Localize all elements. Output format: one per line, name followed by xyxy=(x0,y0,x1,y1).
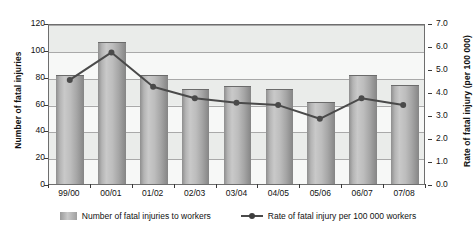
rate-point-03-04 xyxy=(234,100,240,106)
x-axis-labels: 99/0000/0101/0202/0303/0404/0505/0606/07… xyxy=(48,188,425,204)
bar-swatch-icon xyxy=(60,212,77,220)
y-axis-right-tick-label: 0.0 xyxy=(436,179,448,189)
rate-point-07-08 xyxy=(400,102,406,108)
y-axis-right-title: Rate of fatal injury (per 100 000) xyxy=(462,11,472,191)
x-axis-tickmark xyxy=(90,184,91,188)
x-axis-tickmark xyxy=(48,184,49,188)
rate-point-05-06 xyxy=(317,116,323,122)
x-axis-tickmark xyxy=(174,184,175,188)
rate-point-01-02 xyxy=(150,84,156,90)
rate-point-02-03 xyxy=(192,95,198,101)
rate-line-path xyxy=(70,52,403,118)
y-axis-left-tick-label: 60 xyxy=(23,99,45,109)
legend-label-line: Rate of fatal injury per 100 000 workers xyxy=(268,211,416,221)
y-axis-right-tick-label: 2.0 xyxy=(436,133,448,143)
y-axis-right-tickmark xyxy=(428,93,432,94)
legend-label-bars: Number of fatal injuries to workers xyxy=(82,211,211,221)
x-axis-tickmark xyxy=(425,184,426,188)
x-axis-tickmark xyxy=(341,184,342,188)
rate-point-99-00 xyxy=(67,77,73,83)
y-axis-right-tickmark xyxy=(428,116,432,117)
y-axis-right-tick-label: 4.0 xyxy=(436,87,448,97)
x-axis-tickmark xyxy=(257,184,258,188)
y-axis-right-tick-label: 7.0 xyxy=(436,18,448,28)
x-axis-label-03-04: 03/04 xyxy=(215,188,259,198)
y-axis-left-tick-label: 20 xyxy=(23,152,45,162)
y-axis-right-tickmark xyxy=(428,24,432,25)
chart-container: Number of fatal injuries Rate of fatal i… xyxy=(0,0,476,232)
x-axis-label-00-01: 00/01 xyxy=(89,188,133,198)
y-axis-right-tickmark xyxy=(428,47,432,48)
y-axis-right-tick-label: 1.0 xyxy=(436,156,448,166)
rate-point-00-01 xyxy=(108,49,114,55)
y-axis-left-tick-label: 40 xyxy=(23,125,45,135)
y-axis-left-tick-label: 0 xyxy=(23,179,45,189)
y-axis-right-tickmark xyxy=(428,185,432,186)
y-axis-right-tickmark xyxy=(428,139,432,140)
legend-item-line: Rate of fatal injury per 100 000 workers xyxy=(241,211,416,221)
chart-legend: Number of fatal injuries to workers Rate… xyxy=(0,206,476,226)
y-axis-right-tickmark xyxy=(428,162,432,163)
y-axis-left-tick-label: 100 xyxy=(23,45,45,55)
legend-item-bars: Number of fatal injuries to workers xyxy=(60,211,211,221)
y-axis-left-tick-label: 120 xyxy=(23,18,45,28)
line-marker-icon xyxy=(241,212,263,220)
y-axis-right-tick-label: 5.0 xyxy=(436,64,448,74)
x-axis-label-01-02: 01/02 xyxy=(131,188,175,198)
x-axis-label-06-07: 06/07 xyxy=(340,188,384,198)
x-axis-label-02-03: 02/03 xyxy=(173,188,217,198)
x-axis-label-99-00: 99/00 xyxy=(47,188,91,198)
x-axis-tickmark xyxy=(299,184,300,188)
x-axis-tickmark xyxy=(132,184,133,188)
x-axis-label-07-08: 07/08 xyxy=(382,188,426,198)
plot-area xyxy=(48,24,425,185)
rate-point-06-07 xyxy=(359,95,365,101)
x-axis-label-04-05: 04/05 xyxy=(256,188,300,198)
y-axis-right-tick-label: 6.0 xyxy=(436,41,448,51)
x-axis-label-05-06: 05/06 xyxy=(298,188,342,198)
rate-point-04-05 xyxy=(275,102,281,108)
y-axis-right-tick-label: 3.0 xyxy=(436,110,448,120)
y-axis-right-ticks: 0.01.02.03.04.05.06.07.0 xyxy=(428,0,458,232)
line-series-layer xyxy=(49,25,424,185)
y-axis-left-tick-label: 80 xyxy=(23,72,45,82)
x-axis-tickmark xyxy=(216,184,217,188)
y-axis-left-ticks: 020406080100120 xyxy=(20,0,45,232)
y-axis-right-tickmark xyxy=(428,70,432,71)
x-axis-tickmark xyxy=(383,184,384,188)
